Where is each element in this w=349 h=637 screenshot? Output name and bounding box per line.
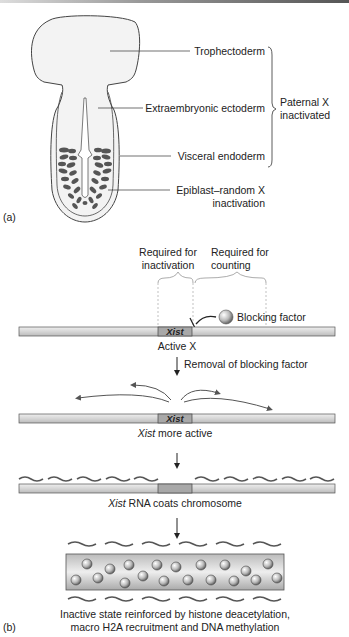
label-trophectoderm: Trophectoderm: [194, 45, 265, 58]
spreading-arrows: [78, 385, 270, 409]
coats-text: RNA coats chromosome: [126, 497, 242, 509]
more-active-text: more active: [155, 427, 212, 439]
panel-a-tag: (a): [3, 211, 16, 224]
blocking-factor-ball: [219, 310, 233, 324]
panel-b-tag: (b): [3, 621, 16, 634]
inhibition-arrow: [196, 316, 216, 324]
paternal-bracket: [268, 47, 276, 167]
label-removal: Removal of blocking factor: [184, 358, 308, 371]
label-epiblast-1: Epiblast–random X: [176, 184, 265, 197]
label-blocking-factor: Blocking factor: [237, 311, 306, 324]
label-xist-more-active: Xist more active: [100, 427, 250, 440]
label-required-counting-1: Required for: [211, 246, 269, 259]
label-xist-coats: Xist RNA coats chromosome: [80, 497, 270, 510]
label-xist-gene: Xist: [158, 325, 192, 338]
label-xist-gene-2: Xist: [158, 412, 192, 425]
rna-squiggles-bottom: [68, 597, 281, 601]
label-required-inactivation-2: inactivation: [136, 259, 200, 272]
embryo-illustration: [31, 16, 139, 222]
label-required-counting-2: counting: [211, 259, 251, 272]
label-epiblast-2: inactivation: [212, 197, 265, 210]
label-active-x: Active X: [150, 340, 204, 353]
label-required-inactivation-1: Required for: [136, 246, 200, 259]
label-paternal-x-1: Paternal X: [280, 96, 329, 109]
xist-italic: Xist: [138, 427, 156, 439]
xist-italic-2: Xist: [108, 497, 126, 509]
xist-region-3: [158, 484, 192, 493]
label-extraembryonic-ectoderm: Extraembryonic ectoderm: [145, 102, 265, 115]
rna-squiggles-top: [68, 542, 281, 546]
label-final-2: macro H2A recruitment and DNA methylatio…: [40, 621, 310, 634]
label-visceral-endoderm: Visceral endoderm: [178, 150, 265, 163]
xist-rna-squiggles: [19, 477, 334, 481]
region-brackets: [158, 272, 266, 283]
label-final-1: Inactive state reinforced by histone dea…: [40, 608, 310, 621]
label-paternal-x-2: inactivated: [280, 109, 330, 122]
